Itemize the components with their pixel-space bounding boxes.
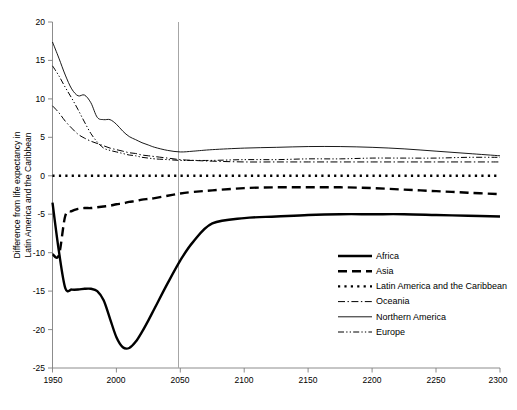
y-axis-label-line2: Latin America and the Caribbean — [23, 132, 33, 257]
series-line-europe — [53, 66, 501, 161]
x-tick-label: 1950 — [44, 375, 63, 385]
y-tick-label: -15 — [33, 286, 46, 296]
y-tick-label: -5 — [37, 209, 45, 219]
y-tick-label: 10 — [36, 94, 46, 104]
series-line-asia — [53, 187, 501, 257]
series-line-northern-america — [53, 42, 501, 156]
series-layer — [53, 42, 501, 349]
legend-item-africa[interactable]: Africa — [338, 251, 399, 261]
x-tick-label: 2150 — [299, 375, 318, 385]
y-tick-label: -10 — [33, 248, 46, 258]
y-tick-label: -25 — [33, 363, 46, 373]
y-axis-label-line1: Difference from life expectancy in — [12, 131, 22, 258]
legend-label: Europe — [376, 327, 405, 337]
y-axis-tick-labels: 20 15 10 5 0 -5 -10 -15 -20 -25 — [33, 17, 46, 373]
y-axis-ticks — [48, 22, 53, 368]
chart-legend: AfricaAsiaLatin America and the Caribbea… — [338, 251, 507, 337]
legend-label: Africa — [376, 251, 399, 261]
x-tick-label: 2250 — [427, 375, 446, 385]
legend-item-northern-america[interactable]: Northern America — [338, 312, 446, 322]
y-tick-label: 0 — [40, 171, 45, 181]
x-tick-label: 2200 — [363, 375, 382, 385]
y-tick-label: 15 — [36, 55, 46, 65]
series-line-oceania — [53, 106, 501, 162]
legend-label: Northern America — [376, 312, 446, 322]
x-tick-label: 2050 — [171, 375, 190, 385]
y-tick-label: 20 — [36, 17, 46, 27]
legend-label: Oceania — [376, 296, 410, 306]
y-tick-label: 5 — [40, 132, 45, 142]
y-axis-label: Difference from life expectancy in Latin… — [12, 131, 33, 258]
legend-label: Asia — [376, 266, 394, 276]
series-line-africa — [53, 203, 501, 349]
legend-item-latin-america-and-the-caribbean[interactable]: Latin America and the Caribbean — [338, 281, 507, 291]
legend-item-oceania[interactable]: Oceania — [338, 296, 410, 306]
x-axis-tick-labels: 1950 2000 2050 2100 2150 2200 2250 2300 — [44, 375, 508, 385]
x-tick-label: 2000 — [107, 375, 126, 385]
y-tick-label: -20 — [33, 325, 46, 335]
legend-label: Latin America and the Caribbean — [376, 281, 507, 291]
x-tick-label: 2100 — [235, 375, 254, 385]
x-tick-label: 2300 — [489, 375, 508, 385]
legend-item-asia[interactable]: Asia — [338, 266, 394, 276]
legend-item-europe[interactable]: Europe — [338, 327, 405, 337]
x-axis-ticks — [53, 368, 501, 373]
chart-figure: 20 15 10 5 0 -5 -10 -15 -20 -25 1950 200… — [0, 0, 517, 410]
